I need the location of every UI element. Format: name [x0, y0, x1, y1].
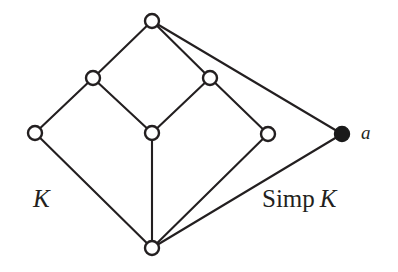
- nodes-group: [28, 14, 350, 255]
- edge-upper_left-center: [98, 83, 146, 128]
- label-simp-k: SimpK: [262, 186, 336, 211]
- right-vertex: [261, 127, 275, 141]
- upper-right-vertex: [203, 71, 217, 85]
- figure-canvas: K SimpK a: [0, 0, 398, 272]
- apex-vertex-a: [334, 126, 349, 141]
- bottom-vertex: [145, 241, 159, 255]
- edge-top-upper_right: [157, 26, 205, 73]
- edge-upper_right-right: [215, 83, 263, 129]
- upper-left-vertex: [86, 71, 100, 85]
- graph-drawing: [0, 0, 398, 272]
- center-vertex: [145, 126, 159, 140]
- edge-upper_left-left: [40, 83, 87, 128]
- edge-upper_right-center: [157, 83, 204, 128]
- label-complex-k: K: [33, 186, 50, 211]
- edge-left-bottom: [40, 138, 147, 243]
- left-vertex: [28, 126, 42, 140]
- edge-top-upper_left: [98, 26, 147, 73]
- label-vertex-a: a: [361, 123, 371, 142]
- label-simp-k-italic: K: [315, 185, 337, 212]
- top-vertex: [145, 14, 159, 28]
- label-simp-prefix: Simp: [262, 185, 315, 212]
